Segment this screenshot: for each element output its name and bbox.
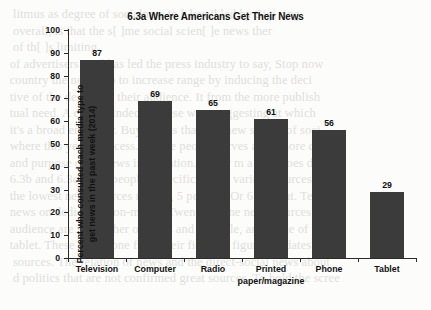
y-axis-tick-label: 90 xyxy=(32,47,60,58)
y-axis-tick-label: 10 xyxy=(32,229,60,240)
bar-value-label: 61 xyxy=(244,106,297,117)
bars-container: 876965615629 xyxy=(68,30,416,258)
y-axis-tick xyxy=(64,121,68,122)
y-axis-tick-label: 80 xyxy=(32,70,60,81)
bar xyxy=(138,101,172,258)
y-axis-tick xyxy=(64,190,68,191)
x-axis-tick xyxy=(184,258,185,262)
bar xyxy=(370,192,404,258)
x-axis-tick xyxy=(242,258,243,262)
y-axis-title-line1: Percent who consulted each media type to xyxy=(74,49,86,298)
y-axis-tick xyxy=(64,30,68,31)
y-axis-tick-label: 40 xyxy=(32,161,60,172)
y-axis-tick xyxy=(64,144,68,145)
x-axis-tick xyxy=(126,258,127,262)
bar-value-label: 69 xyxy=(128,88,181,99)
bar-chart-figure: 6.3a Where Americans Get Their News 0102… xyxy=(0,0,431,310)
y-axis-line xyxy=(68,29,69,259)
chart-title: 6.3a Where Americans Get Their News xyxy=(13,10,418,22)
x-axis-tick xyxy=(68,258,69,262)
y-axis-tick-label: 20 xyxy=(32,206,60,217)
bar-value-label: 29 xyxy=(360,179,413,190)
y-axis-tick-labels: 0102030405060708090100 xyxy=(28,0,60,310)
y-axis-tick-label: 60 xyxy=(32,115,60,126)
y-axis-tick-label: 30 xyxy=(32,184,60,195)
bar-value-label: 56 xyxy=(302,117,355,128)
y-axis-tick xyxy=(64,212,68,213)
plot-area: 876965615629 Percent who consulted each … xyxy=(68,30,416,258)
bar-value-label: 65 xyxy=(186,97,239,108)
y-axis-tick xyxy=(64,235,68,236)
x-axis-category-label: Tablet xyxy=(349,263,425,275)
x-axis-tick xyxy=(416,258,417,262)
x-axis-tick xyxy=(358,258,359,262)
bar xyxy=(196,110,230,258)
y-axis-tick-label: 70 xyxy=(32,92,60,103)
bar xyxy=(254,119,288,258)
x-axis-category-line: Tablet xyxy=(349,263,425,275)
y-axis-tick-label: 0 xyxy=(32,252,60,263)
x-axis-tick xyxy=(300,258,301,262)
y-axis-tick xyxy=(64,167,68,168)
y-axis-title-line2: get news in the past week (2014) xyxy=(86,49,98,298)
y-axis-tick xyxy=(64,76,68,77)
y-axis-tick xyxy=(64,53,68,54)
y-axis-tick-label: 50 xyxy=(32,138,60,149)
y-axis-tick-label: 100 xyxy=(32,24,60,35)
bar xyxy=(312,130,346,258)
x-axis-category-labels: TelevisionComputerRadioPrintedpaper/maga… xyxy=(68,263,416,303)
y-axis-tick xyxy=(64,98,68,99)
x-axis-category-line: paper/magazine xyxy=(233,275,309,287)
